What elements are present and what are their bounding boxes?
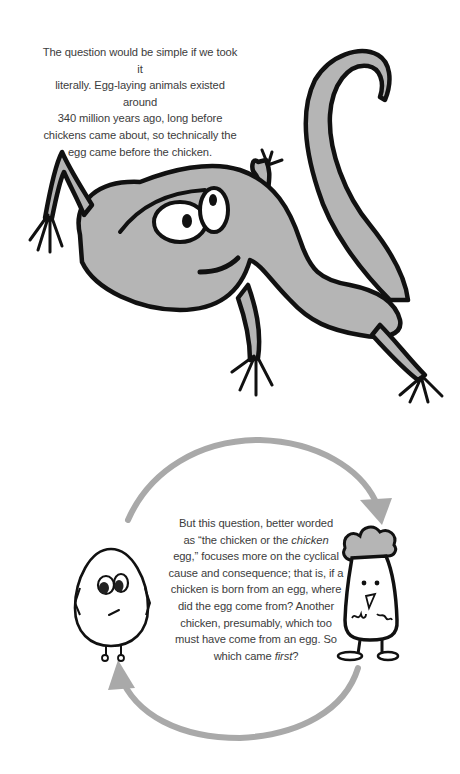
text-run: must have come from an egg. So <box>175 633 337 645</box>
text-run: which came <box>214 650 275 662</box>
cycle-arrow-bottom <box>120 668 358 738</box>
text-line: as “the chicken or the chicken <box>160 532 352 549</box>
text-run: did the egg come from? Another <box>178 600 334 612</box>
text-line: egg came before the chicken. <box>40 144 240 161</box>
text-run: chicken is born from an egg, where <box>171 583 342 595</box>
text-run: as “the chicken or the <box>183 534 291 546</box>
text-line: The question would be simple if we took … <box>40 44 240 77</box>
text-line: cause and consequence; that is, if a <box>160 565 352 582</box>
text-run: But this question, better worded <box>179 517 333 529</box>
egg-character <box>75 549 150 661</box>
text-line: did the egg come from? Another <box>160 598 352 615</box>
text-line: But this question, better worded <box>160 515 352 532</box>
paragraph-cycle: But this question, better worded as “the… <box>160 515 352 664</box>
text-line: egg,” focuses more on the cyclical <box>160 548 352 565</box>
paragraph-intro: The question would be simple if we took … <box>40 44 240 160</box>
text-line: literally. Egg-laying animals existed ar… <box>40 77 240 110</box>
text-run: egg,” focuses more on the cyclical <box>173 550 339 562</box>
text-line: which came first? <box>160 648 352 665</box>
cycle-arrow-top <box>128 440 375 520</box>
text-run: chicken, presumably, which too <box>180 617 332 629</box>
text-line: must have come from an egg. So <box>160 631 352 648</box>
text-run-italic: first <box>275 650 293 662</box>
text-run: ? <box>292 650 298 662</box>
text-run-italic: chicken <box>291 534 328 546</box>
text-line: 340 million years ago, long before <box>40 110 240 127</box>
text-line: chicken, presumably, which too <box>160 615 352 632</box>
text-run: cause and consequence; that is, if a <box>169 567 344 579</box>
text-line: chickens came about, so technically the <box>40 127 240 144</box>
text-line: chicken is born from an egg, where <box>160 581 352 598</box>
